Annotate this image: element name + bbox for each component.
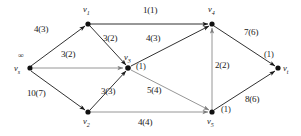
edge-label-v3-v5: 5(4) bbox=[147, 86, 161, 95]
node-v2[interactable] bbox=[85, 109, 90, 114]
annotation-vs-infinity: ∞ bbox=[18, 52, 24, 60]
node-v5[interactable] bbox=[209, 109, 214, 114]
annotation-v5-potential: (1) bbox=[221, 105, 231, 114]
node-label-v5: v5 bbox=[207, 117, 214, 128]
node-label-vs: vs bbox=[14, 64, 20, 75]
node-label-vt: vt bbox=[283, 64, 288, 75]
node-v3[interactable] bbox=[125, 65, 131, 71]
annotation-v3-potential: (1) bbox=[136, 62, 146, 71]
edge-label-vs-v1: 4(3) bbox=[34, 25, 48, 34]
edge-label-vs-v3: 3(2) bbox=[61, 50, 75, 59]
edge-label-v5-v4: 2(2) bbox=[215, 61, 229, 70]
edge-label-v1-v3: 3(2) bbox=[103, 34, 117, 43]
node-label-v2: v2 bbox=[83, 117, 90, 128]
edge-label-vs-v2: 10(7) bbox=[27, 89, 46, 98]
edge-label-v5-vt: 8(6) bbox=[245, 95, 259, 104]
node-label-v4: v4 bbox=[208, 5, 215, 16]
edge-label-v3-v4: 4(3) bbox=[146, 34, 160, 43]
node-vt[interactable] bbox=[275, 65, 280, 70]
node-v1[interactable] bbox=[85, 21, 90, 26]
edge-label-v4-vt: 7(6) bbox=[244, 28, 258, 37]
graph-canvas bbox=[0, 0, 301, 136]
node-v4[interactable] bbox=[209, 21, 214, 26]
node-vs[interactable] bbox=[27, 65, 32, 70]
edge-v1-v3 bbox=[90, 26, 126, 65]
node-label-v1: v1 bbox=[83, 5, 90, 16]
edge-v3-v4 bbox=[131, 26, 209, 66]
edge-label-v1-v4: 1(1) bbox=[143, 6, 157, 15]
edge-v3-v5 bbox=[131, 70, 209, 110]
graph-figure: vs v1 v2 v3 v4 v5 vt ∞ (1) (1) (1) 4(3) … bbox=[0, 0, 301, 136]
annotation-vt-potential: (1) bbox=[264, 50, 274, 59]
edge-label-v2-v3: 3(3) bbox=[101, 87, 115, 96]
node-label-v3: v3 bbox=[124, 53, 131, 64]
edge-label-v2-v5: 4(4) bbox=[138, 118, 152, 127]
